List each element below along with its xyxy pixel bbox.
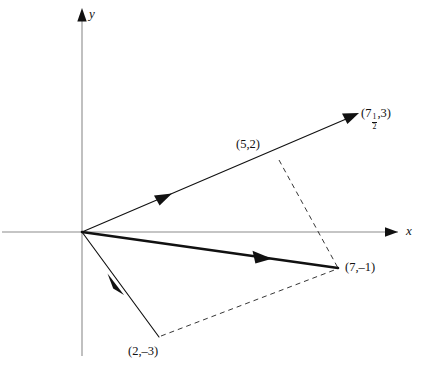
vector-resultant-to-7-neg1 [82,232,338,268]
fraction-denominator: 2 [372,123,378,131]
y-axis-arrowhead [77,8,86,22]
vector-to-2-neg3-mid-arrow [108,274,125,296]
x-axis-arrowhead [385,227,398,237]
vector-to-2-neg3 [82,232,159,337]
vector-to-2-neg3-shaft [82,232,159,337]
vector-to-7half-3-shaft [82,117,352,233]
point-label-7half-3-close: ,3) [377,106,391,120]
point-label-5-2: (5,2) [236,138,260,151]
point-label-2-neg3: (2,–3) [128,345,158,358]
vector-to-7half-3-tip-arrow [342,113,359,124]
dash-5-2-to-7-neg1 [279,160,338,268]
vector-resultant-shaft [82,232,338,268]
point-label-7half-3-open: (7 [361,106,371,120]
vector-to-7half-3 [82,113,359,232]
vector-to-7half-3-mid-arrow [154,193,172,205]
x-axis-label: x [406,224,412,237]
diagram-canvas [0,0,432,367]
point-label-7-neg1: (7,–1) [345,261,375,274]
y-axis-label: y [89,7,95,20]
vector-diagram-figure: y x (5,2) (7,–1) (2,–3) (712,3) [0,0,432,367]
dash-2-neg3-to-7-neg1 [161,269,337,336]
point-label-7half-3: (712,3) [361,107,391,131]
